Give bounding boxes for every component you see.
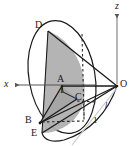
axis-label-x: x — [4, 79, 8, 89]
point-label-E: E — [31, 128, 37, 138]
point-label-B: B — [25, 115, 32, 125]
point-label-C: C — [75, 92, 82, 102]
point-label-O: O — [120, 79, 127, 89]
cone-geometry-figure: x z D A I C B E O 1 l — [0, 0, 133, 146]
point-label-I: I — [60, 85, 63, 95]
point-label-A: A — [57, 74, 64, 84]
point-label-D: D — [35, 20, 42, 30]
measure-label-slant-length: l — [105, 101, 107, 111]
point-dot-B — [39, 122, 42, 125]
point-dot-O — [116, 85, 119, 88]
axis-label-z: z — [115, 1, 119, 11]
measure-label-unit-length: 1 — [93, 115, 98, 125]
figure-canvas — [0, 0, 133, 146]
